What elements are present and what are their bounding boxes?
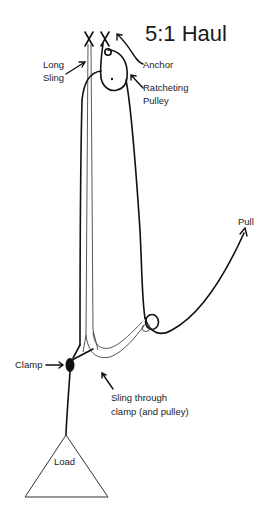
- clamp-label: Clamp: [15, 359, 42, 370]
- long-sling-label-line2: Sling: [43, 72, 64, 83]
- clamp: [66, 345, 94, 372]
- load-rope: [66, 372, 70, 435]
- ratcheting-pulley-label-line1: Ratcheting: [143, 82, 188, 93]
- sling-through-label-line1: Sling through: [111, 392, 167, 403]
- load-label: Load: [54, 456, 75, 467]
- ratcheting-pulley-label-line2: Pulley: [143, 95, 169, 106]
- anchor-label: Anchor: [143, 59, 173, 70]
- diagram-title: 5:1 Haul: [145, 21, 227, 46]
- haul-rope: [80, 71, 247, 345]
- long-sling: [83, 44, 98, 352]
- sling-through-label-line2: clamp (and pulley): [111, 406, 189, 417]
- ratcheting-pulley-arrow: [131, 75, 143, 88]
- anchor-x-marks: [85, 32, 109, 46]
- long-sling-arrow: [66, 62, 85, 74]
- sling-through-arrow: [102, 373, 113, 389]
- sling-through-clamp: [86, 322, 144, 358]
- long-sling-label-line1: Long: [43, 59, 64, 70]
- load-triangle: Load: [25, 435, 108, 497]
- ratcheting-pulley: [101, 44, 128, 91]
- haul-system-diagram: 5:1 Haul Loa: [0, 0, 268, 522]
- pull-label: Pull: [238, 216, 254, 227]
- anchor-arrow: [117, 34, 143, 64]
- clamp-arrow: [46, 362, 63, 368]
